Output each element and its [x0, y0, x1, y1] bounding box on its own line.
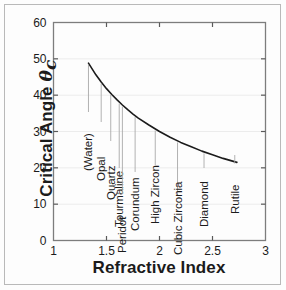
- annotation-label: Corundum: [129, 177, 141, 231]
- annotation-label: Rutile: [229, 185, 241, 214]
- y-axis-title-text: Critical Angle: [37, 86, 56, 196]
- annotation-label: Cubic Zirconia: [172, 181, 184, 255]
- annotation-label: Peridot: [116, 216, 128, 253]
- annotation-label: High Zircon: [149, 165, 161, 224]
- x-axis-title: Refractive Index: [53, 258, 265, 278]
- theta-symbol: θ: [36, 70, 56, 81]
- figure-container: 010203040506011.522.53(Water)OpalQuartzT…: [0, 0, 286, 290]
- x-tick-label: 3: [262, 244, 269, 258]
- x-tick-label: 2: [156, 244, 163, 258]
- annotation-label: Diamond: [198, 181, 210, 227]
- annotation-label: (Water): [82, 133, 94, 171]
- x-tick-label: 1: [50, 244, 57, 258]
- x-tick-label: 2.5: [204, 244, 221, 258]
- y-axis-title: Critical Angle θc: [36, 18, 60, 238]
- x-tick-label: 1.5: [98, 244, 115, 258]
- theta-subscript: c: [40, 60, 60, 70]
